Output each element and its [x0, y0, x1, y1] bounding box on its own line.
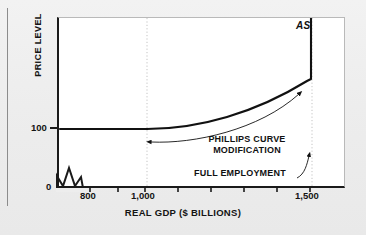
- x-axis-title: REAL GDP ($ BILLIONS): [0, 207, 366, 218]
- phillips-curve-annotation-line-1: PHILLIPS CURVE: [182, 134, 312, 145]
- origin-label: 0: [46, 181, 51, 192]
- figure-page: PRICE LEVEL: [0, 0, 366, 235]
- x-tick-label-1000: 1,000: [131, 190, 155, 201]
- y-axis-title: PRICE LEVEL: [33, 0, 43, 105]
- plot-area: [57, 17, 345, 188]
- annotation-arrows-layer: [59, 18, 347, 189]
- page-margin-rule: [7, 8, 8, 206]
- x-tick-label-1500: 1,500: [295, 190, 319, 201]
- y-ticks-layer: [50, 17, 62, 189]
- y-tick-label-100: 100: [31, 122, 47, 133]
- full-employment-annotation: FULL EMPLOYMENT: [175, 168, 305, 178]
- as-curve-label: AS: [296, 20, 311, 31]
- phillips-curve-annotation: PHILLIPS CURVE MODIFICATION: [182, 134, 312, 156]
- plot-inner: [59, 18, 344, 186]
- x-tick-label-800: 800: [80, 190, 96, 201]
- phillips-curve-annotation-line-2: MODIFICATION: [182, 145, 312, 156]
